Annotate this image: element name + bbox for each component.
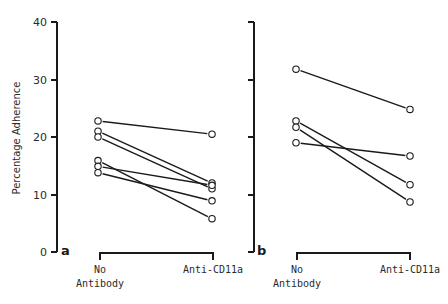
data-point-marker [95,169,101,175]
ytick-0: 0 [40,246,47,259]
data-point-marker [293,118,299,124]
data-point-marker [209,131,215,137]
ytick-10: 10 [33,189,47,202]
data-point-marker [407,182,413,188]
panel-b-x-bracket [297,253,410,260]
series-line [102,133,207,181]
data-point-marker [293,140,299,146]
panel-a-y-axis [51,22,57,252]
panel-b-cat1-line1: No [291,264,303,275]
panel-a-data-series [95,118,215,222]
data-point-marker [407,106,413,112]
series-line [103,121,208,133]
panel-b-cat2: Anti-CD11a [380,264,440,275]
adherence-chart: Percentage Adherence 40 30 20 10 0 a No … [0,0,448,304]
panel-b-label: b [257,243,266,258]
data-point-marker [293,66,299,72]
series-line [103,174,208,200]
data-point-marker [95,134,101,140]
series-line [102,163,208,217]
series-line [300,71,405,108]
series-line [300,130,406,200]
data-point-marker [95,163,101,169]
panel-a-cat2: Anti-CD11a [183,264,243,275]
data-point-marker [407,199,413,205]
data-point-marker [209,198,215,204]
panel-b-y-axis [248,22,254,252]
data-point-marker [209,215,215,221]
panel-b-data-series [293,66,413,205]
series-line [300,123,406,182]
panel-a-label: a [61,243,70,258]
data-point-marker [209,182,215,188]
ytick-30: 30 [33,74,47,87]
panel-b-cat1-line2: Antibody [273,278,321,289]
data-point-marker [293,124,299,130]
ytick-20: 20 [33,131,47,144]
y-axis-title: Percentage Adherence [11,82,22,195]
data-point-marker [407,153,413,159]
data-point-marker [95,118,101,124]
panel-a-x-bracket [100,253,213,260]
ytick-40: 40 [33,16,47,29]
series-line [103,167,208,184]
panel-a-cat1-line1: No [94,264,106,275]
series-line [102,139,207,187]
panel-a-tick-labels: 40 30 20 10 0 [33,16,47,259]
panel-a-cat1-line2: Antibody [76,278,124,289]
